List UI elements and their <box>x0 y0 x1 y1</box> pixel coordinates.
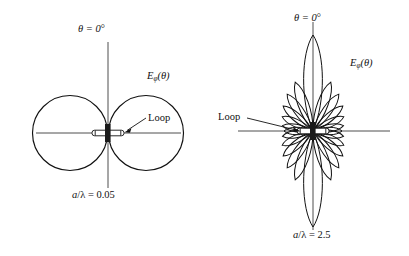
loop-leader-arrowhead-left <box>125 128 132 133</box>
ratio-rest-left: /λ = 0.05 <box>77 189 115 200</box>
right-panel-graphics <box>238 22 390 230</box>
degree-symbol-right: ° <box>317 12 321 23</box>
loop-leader-line-left <box>127 118 146 131</box>
ratio-rest-right: /λ = 2.5 <box>298 229 330 240</box>
ratio-caption-left: a/λ = 0.05 <box>72 190 115 201</box>
ratio-caption-right: a/λ = 2.5 <box>293 230 331 241</box>
efield-curve-label-right: Eφ(θ) <box>350 58 373 70</box>
antenna-pattern-figure: θ = 0° Eφ(θ) Loop a/λ = 0.05 θ = 0° Eφ(θ… <box>0 0 409 256</box>
loop-antenna-icon-right <box>297 122 329 140</box>
loop-annotation-right: Loop <box>218 112 240 123</box>
theta-axis-label-left: θ = 0° <box>78 24 105 35</box>
degree-symbol-left: ° <box>101 23 105 34</box>
efield-curve-label-left: Eφ(θ) <box>147 71 170 83</box>
theta-axis-label-right: θ = 0° <box>294 13 321 24</box>
loop-antenna-icon-left <box>92 124 124 142</box>
pattern-drawing <box>0 0 409 256</box>
loop-annotation-left: Loop <box>148 113 170 124</box>
